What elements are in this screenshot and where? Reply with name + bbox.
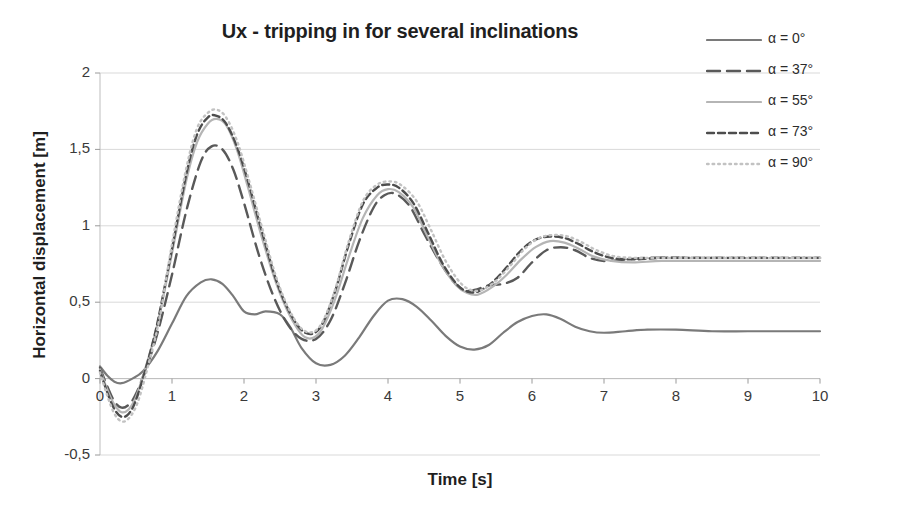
legend-line-swatch — [706, 63, 762, 75]
x-tick-label: 6 — [517, 387, 547, 404]
x-tick-label: 10 — [805, 387, 835, 404]
legend-item-label: α = 0° — [768, 30, 805, 46]
x-tick-label: 3 — [301, 387, 331, 404]
x-tick-label: 8 — [661, 387, 691, 404]
legend-item-4[interactable]: α = 90° — [706, 146, 906, 177]
y-tick-label: 1,5 — [42, 139, 90, 156]
legend-item-1[interactable]: α = 37° — [706, 53, 906, 84]
legend-item-label: α = 73° — [768, 123, 813, 139]
y-tick-label: 2 — [42, 63, 90, 80]
legend: α = 0°α = 37°α = 55°α = 73°α = 90° — [706, 22, 906, 177]
legend-line-swatch — [706, 94, 762, 106]
legend-item-0[interactable]: α = 0° — [706, 22, 906, 53]
chart-figure: Ux - tripping in for several inclination… — [0, 0, 909, 515]
legend-line-swatch — [706, 156, 762, 168]
legend-item-label: α = 90° — [768, 154, 813, 170]
legend-item-3[interactable]: α = 73° — [706, 115, 906, 146]
legend-item-label: α = 55° — [768, 92, 813, 108]
legend-line-swatch — [706, 32, 762, 44]
x-tick-label: 7 — [589, 387, 619, 404]
x-tick-label: 5 — [445, 387, 475, 404]
series-line-0 — [100, 279, 820, 383]
x-tick-label: 1 — [157, 387, 187, 404]
legend-item-label: α = 37° — [768, 61, 813, 77]
x-tick-label: 0 — [85, 387, 115, 404]
legend-line-swatch — [706, 125, 762, 137]
y-tick-label: 1 — [42, 216, 90, 233]
y-tick-label: 0,5 — [42, 292, 90, 309]
series-line-1 — [100, 145, 820, 407]
y-tick-label: -0,5 — [42, 445, 90, 462]
x-tick-label: 9 — [733, 387, 763, 404]
y-tick-label: 0 — [42, 369, 90, 386]
x-tick-label: 4 — [373, 387, 403, 404]
x-tick-label: 2 — [229, 387, 259, 404]
legend-item-2[interactable]: α = 55° — [706, 84, 906, 115]
